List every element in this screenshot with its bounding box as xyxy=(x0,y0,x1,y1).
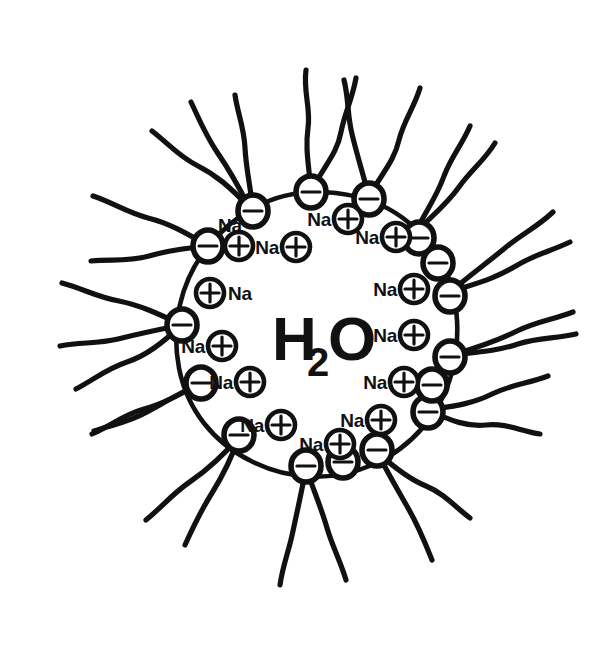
tail xyxy=(185,437,239,545)
counterion-sodium: Na xyxy=(209,368,264,396)
tail xyxy=(377,452,432,560)
head-group-negative xyxy=(435,280,465,312)
head-group-negative xyxy=(362,434,392,466)
micelle-figure: Na Na Na Na xyxy=(0,0,613,645)
counterion-label: Na xyxy=(373,279,397,300)
hydrophobic-tails-group xyxy=(60,70,576,585)
tail xyxy=(146,437,239,520)
counterion-sodium: Na xyxy=(340,406,395,434)
counterion-label: Na xyxy=(373,325,397,346)
core-label-subscript: 2 xyxy=(307,340,329,384)
head-group-negative xyxy=(238,195,268,227)
counterion-sodium: Na xyxy=(181,332,236,360)
tail xyxy=(377,452,470,518)
core-label-o: O xyxy=(328,304,375,373)
counterion-label: Na xyxy=(228,283,252,304)
counterion-sodium: Na xyxy=(355,223,410,251)
head-group-negative xyxy=(296,176,326,208)
tail xyxy=(152,131,249,207)
counterion-label: Na xyxy=(355,227,379,248)
tail xyxy=(450,242,570,292)
tail xyxy=(452,312,573,355)
tail xyxy=(280,468,306,585)
tail xyxy=(450,212,553,292)
micelle-diagram: Na Na Na Na xyxy=(0,0,613,645)
head-group-negative xyxy=(417,369,447,401)
counterion-label: Na xyxy=(209,372,233,393)
counterion-label: Na xyxy=(218,215,242,236)
head-group-negative xyxy=(423,247,453,279)
tail xyxy=(369,88,420,197)
counterion-label: Na xyxy=(255,237,279,258)
tail xyxy=(306,468,346,580)
counterion-label: Na xyxy=(363,372,387,393)
counterion-label: Na xyxy=(240,415,264,436)
tail xyxy=(62,283,182,325)
counterion-sodium: Na xyxy=(373,275,428,303)
counterion-label: Na xyxy=(340,410,364,431)
counterion-sodium: Na xyxy=(196,279,252,307)
tail xyxy=(344,80,369,197)
tail xyxy=(93,196,208,246)
counterion-label: Na xyxy=(299,434,323,455)
counterion-sodium: Na xyxy=(255,233,310,261)
counterion-label: Na xyxy=(307,209,331,230)
counterion-label: Na xyxy=(181,336,205,357)
water-core-label: H 2 O xyxy=(272,304,375,384)
counterion-sodium: Na xyxy=(373,321,428,349)
counterion-sodium: Na xyxy=(299,430,354,458)
counterion-sodium: Na xyxy=(240,411,295,439)
counterion-sodium: Na xyxy=(307,205,362,233)
